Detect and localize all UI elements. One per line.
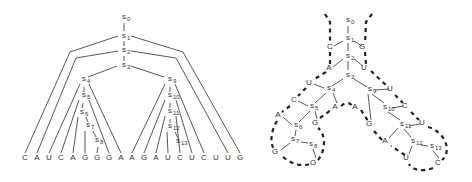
sequence-base: U: [189, 153, 195, 162]
structure-base: U: [403, 153, 409, 162]
tree-node-s0: s0: [122, 12, 131, 22]
structure-state-s5: s5: [310, 101, 319, 111]
sequence-base: G: [106, 153, 112, 162]
structure-base: A: [275, 110, 281, 119]
tree-node-s2: s2: [122, 45, 131, 55]
structure-base: G: [359, 42, 365, 51]
tree-node-s1: s1: [122, 31, 131, 41]
sequence-base: G: [237, 153, 243, 162]
structure-state-s1: s1: [346, 33, 355, 43]
structure-state-s11: s11: [400, 119, 412, 129]
structure-base: C: [435, 158, 441, 167]
structure-state-s9: s9: [368, 84, 377, 94]
structure-state-s6: s6: [294, 120, 303, 130]
tree-node-s9: s9: [168, 74, 177, 84]
structure-base: C: [402, 101, 408, 110]
sequence-base: G: [141, 153, 147, 162]
structure-base: G: [310, 158, 316, 167]
sequence-base: C: [58, 153, 64, 162]
sequence-base: U: [225, 153, 231, 162]
structure-base: U: [419, 118, 425, 127]
structure-state-s3: s3: [346, 70, 355, 80]
sequence-base: U: [46, 153, 52, 162]
sequence-base: U: [213, 153, 219, 162]
right-backbone-dashed: [271, 14, 446, 170]
diagram-canvas: s0s1s2s3s4s5s6s7s8s9s10s11s12s13 CAUCAGG…: [0, 0, 472, 182]
sequence-base: C: [201, 153, 207, 162]
structure-state-s12: s12: [411, 136, 423, 146]
sequence-base: G: [94, 153, 100, 162]
sequence-base: A: [129, 153, 135, 162]
structure-base: U: [361, 63, 367, 72]
sequence-base: U: [165, 153, 171, 162]
structure-base: A: [326, 63, 332, 72]
structure-base: A: [332, 102, 338, 111]
structure-base: A: [382, 136, 388, 145]
structure-base: G: [312, 118, 318, 127]
structure-state-s10: s10: [383, 102, 395, 112]
left-sequence: CAUCAGGGAAGAUCUCUUG: [22, 153, 243, 162]
structure-state-s13: s13: [430, 141, 442, 151]
tree-node-s5: s5: [82, 90, 91, 100]
structure-state-s8: s8: [309, 139, 318, 149]
tree-node-s3: s3: [122, 60, 131, 70]
structure-state-s2: s2: [346, 51, 355, 61]
structure-base: C: [327, 42, 333, 51]
structure-base: C: [291, 95, 297, 104]
left-parse-tree-lines: [25, 23, 240, 153]
sequence-base: A: [34, 153, 40, 162]
structure-base: G: [272, 147, 278, 156]
structure-state-s0: s0: [346, 15, 355, 25]
left-tree-nodes: s0s1s2s3s4s5s6s7s8s9s10s11s12s13: [80, 12, 188, 146]
sequence-base: A: [70, 153, 76, 162]
structure-base: G: [366, 119, 372, 128]
sequence-base: A: [153, 153, 159, 162]
sequence-base: C: [177, 153, 183, 162]
tree-node-s12: s12: [168, 121, 180, 131]
structure-base: A: [352, 102, 358, 111]
sequence-base: C: [22, 153, 28, 162]
tree-node-s13: s13: [176, 136, 188, 146]
sequence-base: A: [118, 153, 124, 162]
tree-node-s7: s7: [86, 120, 95, 130]
right-structure-states: s0s1s2s3s4s5s6s7s8s9s10s11s12s13: [291, 15, 442, 151]
structure-base: U: [387, 84, 393, 93]
sequence-base: G: [82, 153, 88, 162]
tree-node-s6: s6: [80, 107, 89, 117]
tree-node-s4: s4: [82, 74, 91, 84]
structure-base: U: [306, 78, 312, 87]
